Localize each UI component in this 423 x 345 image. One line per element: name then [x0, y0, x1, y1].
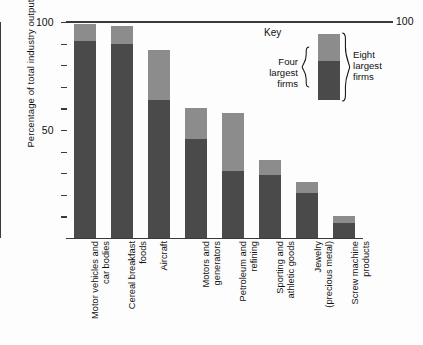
- legend-brace-left-icon: [301, 46, 310, 88]
- y-axis-tick: 100: [61, 22, 67, 23]
- legend-swatch: [318, 34, 340, 100]
- x-axis-label: Motor vehicles and car bodies: [90, 241, 116, 345]
- bar: [111, 26, 133, 238]
- bar: [333, 216, 355, 238]
- legend-label-four-largest: Four largest firms: [236, 56, 298, 89]
- y-axis-tick: [61, 65, 67, 66]
- y-axis-line: [0, 22, 1, 238]
- bar-segment-four-largest: [333, 223, 355, 238]
- legend-swatch-four-largest: [318, 61, 340, 100]
- y-axis-tick: [61, 195, 67, 196]
- legend-label-eight-largest: Eight largest firms: [353, 49, 419, 82]
- bar: [296, 182, 318, 238]
- x-axis-labels: Motor vehicles and car bodiesCereal brea…: [66, 241, 363, 345]
- x-axis-label: Jewelry (precious metal): [313, 241, 339, 345]
- bar-segment-four-largest: [111, 44, 133, 238]
- bar-segment-four-largest: [222, 171, 244, 238]
- bar: [222, 113, 244, 238]
- chart-figure: Percentage of total industry output 100 …: [0, 0, 423, 345]
- y-axis-tick-label: 50: [42, 124, 54, 136]
- bar: [185, 108, 207, 238]
- y-axis-title: Percentage of total industry output: [25, 0, 36, 164]
- legend-swatch-eight-largest: [318, 34, 340, 61]
- x-axis-label: Petroleum and refining: [238, 241, 264, 345]
- bar-segment-four-largest: [185, 139, 207, 238]
- x-axis-label: Sporting and athletic goods: [275, 241, 301, 345]
- bar-segment-four-largest: [74, 41, 96, 238]
- y-axis-tick: [61, 152, 67, 153]
- y-axis-tick: [61, 108, 67, 109]
- legend-title: Key: [264, 27, 281, 38]
- x-axis-label: Cereal breakfast foods: [127, 241, 153, 345]
- bar: [148, 50, 170, 238]
- y-axis-tick: 50: [61, 130, 67, 131]
- chart-legend: Key Four largest firms Eight largest fir…: [240, 22, 420, 112]
- bar-segment-four-largest: [259, 175, 281, 238]
- y-axis-tick: [61, 44, 67, 45]
- y-axis-tick: [61, 87, 67, 88]
- y-axis-tick: [61, 173, 67, 174]
- bar-segment-four-largest: [148, 100, 170, 238]
- bar: [259, 160, 281, 238]
- x-axis-label: Motors and generators: [201, 241, 227, 345]
- legend-brace-right-icon: [341, 32, 351, 102]
- x-axis-label: Screw machine products: [350, 241, 376, 345]
- y-axis-tick-label: 100: [36, 16, 54, 28]
- x-axis-label: Aircraft: [159, 241, 185, 345]
- bar-segment-four-largest: [296, 193, 318, 238]
- bar: [74, 24, 96, 238]
- y-axis-tick: [61, 216, 67, 217]
